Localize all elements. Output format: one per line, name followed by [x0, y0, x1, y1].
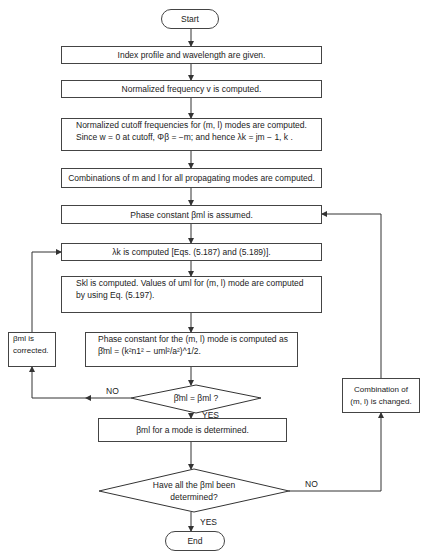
- step-text: βml is: [13, 333, 34, 345]
- step-s-computed: Skl is computed. Values of uml for (m, l…: [61, 276, 322, 313]
- step-lambda-computed: λk is computed [Eqs. (5.187) and (5.189)…: [61, 243, 322, 261]
- step-text: β̂ml = (k²n1² − uml²/a²)^1/2.: [98, 345, 201, 357]
- step-text: λk is computed [Eqs. (5.187) and (5.189)…: [112, 246, 270, 258]
- decision-text: Have all the βml been: [124, 479, 264, 491]
- step-text: Skl is computed. Values of uml for (m, l…: [76, 277, 304, 289]
- step-cutoff-frequencies: Normalized cutoff frequencies for (m, l)…: [61, 118, 322, 151]
- end-label: End: [187, 536, 202, 546]
- step-combinations: Combinations of m and l for all propagat…: [61, 168, 322, 188]
- start-terminal: Start: [161, 9, 219, 29]
- step-text: Index profile and wavelength are given.: [118, 49, 266, 61]
- label-no-1: NO: [106, 386, 119, 396]
- step-beta-corrected: βml is corrected.: [8, 332, 56, 367]
- step-text: Phase constant βml is assumed.: [130, 209, 253, 221]
- step-text: Normalized cutoff frequencies for (m, l)…: [76, 119, 307, 131]
- step-index-profile: Index profile and wavelength are given.: [61, 46, 322, 64]
- step-combination-changed: Combination of (m, l) is changed.: [342, 378, 420, 413]
- step-normalized-frequency: Normalized frequency v is computed.: [61, 80, 322, 98]
- step-text: Since w = 0 at cutoff, Φβ = −m; and henc…: [76, 131, 293, 143]
- step-text: Phase constant for the (m, l) mode is co…: [98, 333, 288, 345]
- step-text: by using Eq. (5.197).: [76, 289, 154, 301]
- label-yes-2: YES: [200, 517, 217, 527]
- decision-all-determined: Have all the βml been determined?: [124, 479, 264, 503]
- step-phase-assumed: Phase constant βml is assumed.: [61, 205, 322, 224]
- step-text: Combinations of m and l for all propagat…: [68, 172, 315, 184]
- step-text: Normalized frequency v is computed.: [122, 83, 262, 95]
- decision-text: β̂ml = βml ?: [174, 393, 219, 403]
- step-text: corrected.: [13, 345, 49, 357]
- step-beta-determined: βml for a mode is determined.: [98, 418, 287, 442]
- end-terminal: End: [165, 531, 225, 551]
- step-text: (m, l) is changed.: [350, 396, 411, 408]
- decision-text: determined?: [124, 491, 264, 503]
- step-text: βml for a mode is determined.: [136, 424, 249, 436]
- label-no-2: NO: [305, 479, 318, 489]
- decision-equal-check: β̂ml = βml ?: [140, 392, 252, 404]
- start-label: Start: [181, 14, 199, 24]
- step-text: Combination of: [354, 384, 408, 396]
- step-phase-mode-computed: Phase constant for the (m, l) mode is co…: [85, 332, 298, 367]
